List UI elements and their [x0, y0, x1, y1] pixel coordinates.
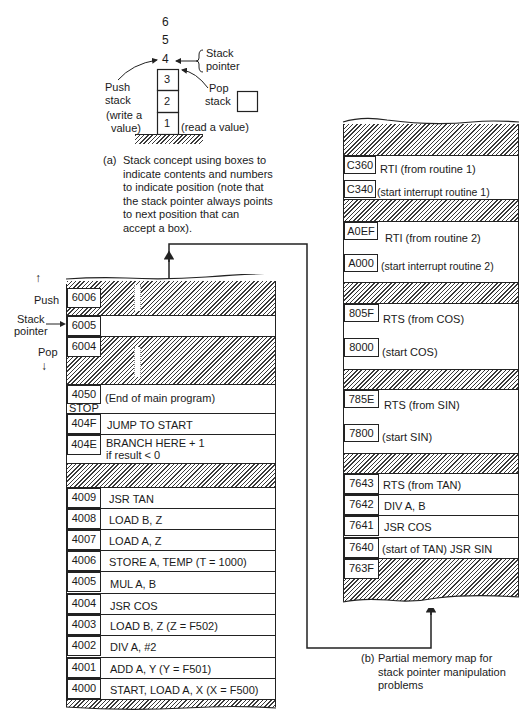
address-label: 4001	[67, 658, 101, 678]
instruction-text: LOAD A, Z	[109, 535, 162, 547]
memory-row-4006: 4006 STORE A, TEMP (T = 1000)	[67, 550, 275, 571]
address-label: 4003	[67, 615, 101, 635]
address-label-785E: 785E	[344, 390, 379, 408]
pop-side-label: Pop	[38, 346, 58, 359]
address-label: 6004	[67, 337, 101, 357]
memory-row-404F: 404F JUMP TO START	[67, 413, 275, 434]
memory-gap	[344, 453, 518, 473]
memory-row-4008: 4008 LOAD B, Z	[67, 508, 275, 529]
caption-b-letter: (b)	[361, 652, 374, 666]
instruction-text: MUL A, B	[110, 578, 156, 590]
address-label-805F: 805F	[344, 304, 379, 322]
memory-row-7641: 7641 JSR COS	[344, 515, 518, 537]
address-label: 4005	[67, 572, 101, 592]
instruction-text: RTS (from TAN)	[383, 479, 461, 491]
wavy-bottom-edge	[65, 703, 277, 713]
address-label-C340: C340	[344, 180, 376, 198]
memory-row-6006: 6006	[67, 281, 275, 315]
memory-row-4009: 4009 JSR TAN	[67, 487, 275, 508]
instruction-text: DIV A, #2	[110, 641, 156, 653]
memory-row-7643: 7643 RTS (from TAN)	[344, 473, 518, 494]
address-label-A000: A000	[344, 254, 378, 272]
address-label: 4009	[67, 488, 101, 508]
continuation-dots-icon	[134, 285, 141, 311]
instruction-text: START, LOAD A, X (X = F500)	[110, 684, 258, 696]
memory-block-cos: 805F RTS (from COS) 8000 (start COS)	[344, 303, 518, 369]
memory-row-6005: 6005	[67, 315, 275, 336]
memory-row-4005: 4005 MUL A, B	[67, 571, 275, 593]
memory-gap	[344, 199, 518, 221]
address-label: 404E	[67, 435, 101, 455]
stack-pointer-side-label-2: pointer	[14, 325, 48, 338]
address-label: 4002	[67, 636, 101, 656]
address-label: 4006	[67, 551, 101, 571]
memory-row-4004: 4004 JSR COS	[67, 593, 275, 614]
memory-row-7640: 7640 (start of TAN) JSR SIN	[344, 537, 518, 558]
memory-row-4002: 4002 DIV A, #2	[67, 635, 275, 657]
memory-block-interrupt-2: A0EF RTI (from routine 2) A000 (start in…	[344, 221, 518, 282]
instruction-text: LOAD B, Z (Z = F502)	[110, 620, 218, 632]
memory-block-sin: 785E RTS (from SIN) 7800 (start SIN)	[344, 389, 518, 453]
address-label-A0EF: A0EF	[344, 222, 378, 240]
instruction-text: (start interrupt routine 2)	[381, 260, 494, 272]
address-label: 6005	[67, 316, 101, 336]
instruction-text: BRANCH HERE + 1	[106, 437, 205, 449]
instruction-text: DIV A, B	[384, 500, 426, 512]
instruction-text: JSR COS	[110, 600, 158, 612]
caption-b: Partial memory map for stack pointer man…	[378, 652, 506, 693]
right-map-body: C360 RTI (from routine 1) C340 (start in…	[343, 124, 519, 602]
address-label: 6006	[67, 288, 101, 308]
memory-row-4003: 4003 LOAD B, Z (Z = F502)	[67, 614, 275, 635]
address-label: 404F	[67, 414, 101, 434]
memory-row-6004: 6004	[67, 336, 275, 384]
instruction-text: (start of TAN) JSR SIN	[382, 543, 492, 555]
instruction-text: RTS (from SIN)	[384, 399, 460, 411]
memory-row-4007: 4007 LOAD A, Z	[67, 529, 275, 550]
memory-row-7642: 7642 DIV A, B	[344, 494, 518, 515]
left-map-body: 6006 6005 6004 4050 STOP (End of main pr…	[66, 281, 276, 707]
address-label-C360: C360	[344, 156, 376, 174]
instruction-text-2: if result < 0	[106, 449, 160, 461]
instruction-text: RTI (from routine 2)	[385, 232, 481, 244]
instruction-text: RTI (from routine 1)	[380, 163, 476, 175]
address-label: 7641	[344, 516, 379, 536]
address-label-7800: 7800	[344, 424, 379, 442]
wavy-top-edge	[342, 116, 522, 128]
memory-row-4001: 4001 ADD A, Y (Y = F501)	[67, 657, 275, 678]
memory-row-4050: 4050 STOP (End of main program)	[67, 384, 275, 413]
pop-down-arrow-icon: ↓	[41, 360, 47, 373]
address-label: 7640	[344, 538, 379, 558]
instruction-text: (start interrupt routine 1)	[377, 186, 490, 198]
memory-gap	[67, 463, 275, 487]
address-label-8000: 8000	[344, 338, 379, 357]
memory-row-404E: 404E BRANCH HERE + 1 if result < 0	[67, 434, 275, 463]
push-up-arrow-icon: ↑	[35, 272, 41, 285]
instruction-text: JSR TAN	[109, 493, 154, 505]
address-label: 4007	[67, 530, 101, 550]
continuation-dots-icon	[134, 347, 141, 377]
instruction-text: RTS (from COS)	[383, 313, 464, 325]
address-label: 4008	[67, 509, 101, 529]
instruction-text: (start SIN)	[382, 431, 432, 443]
address-label: 7642	[344, 495, 379, 515]
instruction-text: JUMP TO START	[107, 419, 193, 431]
instruction-text: (End of main program)	[105, 392, 215, 404]
wavy-bottom-edge	[342, 594, 522, 608]
memory-block-interrupt-1: C360 RTI (from routine 1) C340 (start in…	[344, 155, 518, 199]
address-label: 4000	[67, 679, 101, 699]
stack-pointer-arrow-icon	[46, 320, 68, 328]
address-label: 763F	[344, 559, 379, 579]
instruction-text: (start COS)	[382, 346, 438, 358]
instruction-text: JSR COS	[384, 521, 432, 533]
instruction-text: STORE A, TEMP (T = 1000)	[109, 556, 247, 568]
memory-row-4000: 4000 START, LOAD A, X (X = F500)	[67, 678, 275, 699]
memory-gap	[344, 282, 518, 303]
address-label: 4004	[67, 594, 101, 614]
push-side-label: Push	[34, 294, 59, 307]
memory-gap-top	[344, 124, 518, 155]
instruction-text: ADD A, Y (Y = F501)	[110, 663, 211, 675]
address-label: 7643	[344, 474, 379, 494]
memory-gap	[344, 369, 518, 389]
instruction-text: LOAD B, Z	[109, 514, 162, 526]
